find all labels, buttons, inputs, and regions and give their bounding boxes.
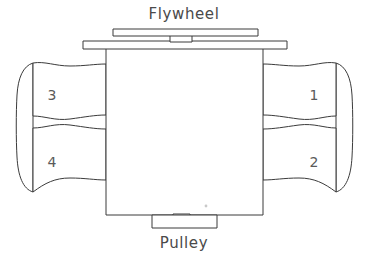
flywheel-bar	[113, 29, 258, 36]
engine-diagram-canvas: Flywheel Pulley 3 4 1 2	[0, 0, 369, 260]
pulley-block	[152, 215, 217, 228]
cylinder-2-body	[263, 125, 336, 192]
flywheel-label: Flywheel	[149, 5, 220, 23]
cylinder-number-3: 3	[48, 87, 57, 103]
cylinder-1-body	[263, 63, 336, 120]
cylinder-number-1: 1	[310, 87, 319, 103]
cylinder-number-4: 4	[48, 154, 57, 170]
left-bank-end-cap	[16, 63, 33, 192]
right-cylinder-bank	[263, 63, 353, 192]
left-cylinder-bank	[16, 63, 106, 192]
engine-layout-diagram: Flywheel Pulley 3 4 1 2	[0, 0, 369, 260]
scan-artifact-speck	[205, 205, 208, 208]
pulley-label: Pulley	[160, 234, 208, 252]
cylinder-3-body	[33, 63, 106, 120]
cylinder-4-body	[33, 125, 106, 192]
engine-block	[106, 48, 263, 215]
cylinder-number-2: 2	[310, 154, 319, 170]
right-bank-end-cap	[336, 63, 353, 192]
